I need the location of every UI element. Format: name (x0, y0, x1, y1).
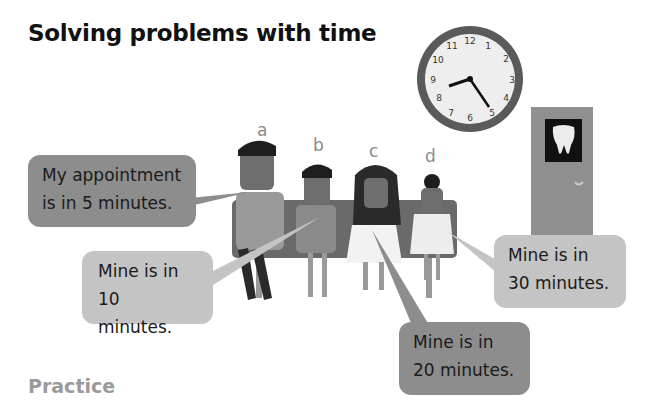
character-label-c: c (369, 141, 378, 161)
svg-text:9: 9 (430, 75, 436, 85)
svg-text:12: 12 (464, 36, 475, 46)
svg-text:3: 3 (509, 75, 515, 85)
svg-text:2: 2 (503, 54, 509, 64)
speech-line: Mine is in (98, 257, 199, 285)
svg-text:11: 11 (446, 41, 457, 51)
speech-line: is in 5 minutes. (42, 189, 182, 217)
speech-line: Mine is in (413, 328, 516, 356)
clock-icon: 1212 345 678 91011 (417, 26, 523, 132)
speech-line: 20 minutes. (413, 356, 516, 384)
person-a (236, 141, 284, 300)
section-heading-practice: Practice (28, 375, 115, 397)
svg-text:7: 7 (448, 108, 454, 118)
character-label-b: b (313, 135, 324, 155)
speech-line: 30 minutes. (508, 269, 612, 297)
speech-bubble-c: Mine is in 20 minutes. (399, 322, 530, 395)
speech-line: Mine is in (508, 241, 612, 269)
speech-bubble-b: Mine is in 10 minutes. (82, 251, 213, 324)
person-b (296, 164, 336, 297)
svg-text:8: 8 (436, 93, 442, 103)
speech-line: My appointment (42, 161, 182, 189)
svg-text:4: 4 (503, 93, 509, 103)
svg-text:6: 6 (467, 113, 473, 123)
svg-text:10: 10 (432, 55, 444, 65)
speech-bubble-d: Mine is in 30 minutes. (494, 235, 626, 308)
speech-line: 10 minutes. (98, 285, 199, 341)
speech-bubble-a: My appointment is in 5 minutes. (28, 155, 196, 227)
character-label-a: a (257, 120, 267, 140)
character-label-d: d (425, 146, 436, 166)
svg-text:5: 5 (489, 108, 495, 118)
svg-text:1: 1 (485, 41, 491, 51)
